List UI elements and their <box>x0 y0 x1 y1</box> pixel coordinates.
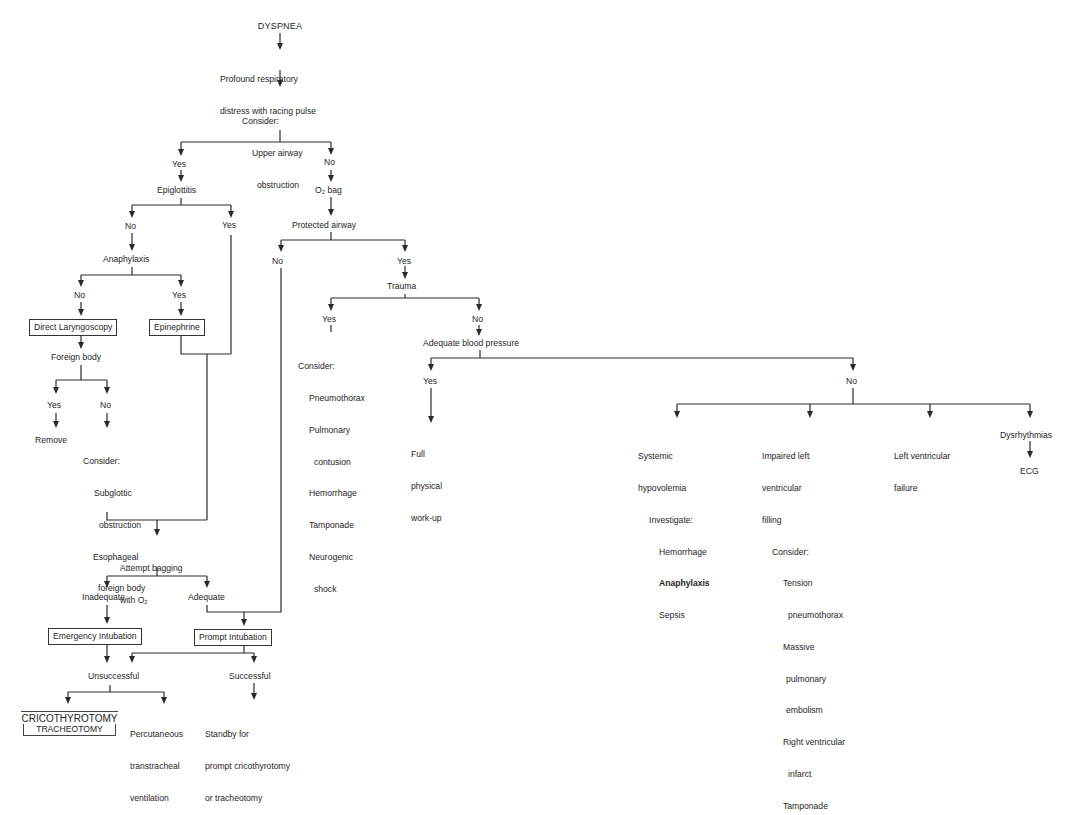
node-anaphylaxis-no: No <box>74 290 85 301</box>
node-trauma-yes: Yes <box>322 314 336 325</box>
node-adequate-blood-pressure: Adequate blood pressure <box>423 338 519 349</box>
node-upper-no: No <box>324 157 335 168</box>
node-foreign-body: Foreign body <box>51 352 101 363</box>
node-bp-yes: Yes <box>423 376 437 387</box>
node-protected-airway-yes: Yes <box>397 256 411 267</box>
node-foreign-body-yes: Yes <box>47 400 61 411</box>
node-inadequate: Inadequate <box>82 592 125 603</box>
node-impaired-lv-filling: Impaired left ventricular filling Consid… <box>762 430 845 815</box>
node-anaphylaxis: Anaphylaxis <box>103 254 149 265</box>
node-full-physical-workup: Full physical work-up <box>411 428 442 545</box>
node-left-ventricular-failure: Left ventricular failure <box>894 430 950 515</box>
box-direct-laryngoscopy: Direct Laryngoscopy <box>29 319 117 336</box>
node-ecg: ECG <box>1020 466 1039 477</box>
node-epiglottitis-no: No <box>125 221 136 232</box>
node-attempt-bagging: Attempt bagging with O₂ <box>120 542 183 627</box>
node-o2-bag: O₂ bag <box>315 185 342 196</box>
node-protected-airway: Protected airway <box>292 220 356 231</box>
node-adequate: Adequate <box>188 592 225 603</box>
tracheotomy-label: TRACHEOTOMY <box>23 724 116 736</box>
node-epiglottitis: Epiglottitis <box>157 185 196 196</box>
node-protected-airway-no: No <box>272 256 283 267</box>
node-dyspnea: DYSPNEA <box>245 21 315 32</box>
node-systemic-hypovolemia: Systemic hypovolemia Investigate: Hemorr… <box>638 430 710 642</box>
node-remove: Remove <box>35 435 67 446</box>
box-prompt-intubation: Prompt Intubation <box>194 629 272 646</box>
node-standby: Standby for prompt cricothyrotomy or tra… <box>205 708 290 815</box>
node-foreign-body-no: No <box>100 400 111 411</box>
node-upper-yes: Yes <box>172 159 186 170</box>
box-cricothyrotomy-tracheotomy: CRICOTHYROTOMY TRACHEOTOMY <box>21 711 118 736</box>
node-successful: Successful <box>229 671 271 682</box>
node-anaphylaxis-yes: Yes <box>172 290 186 301</box>
node-epiglottitis-yes: Yes <box>222 220 236 231</box>
box-epinephrine: Epinephrine <box>149 319 205 336</box>
node-bp-no: No <box>846 376 857 387</box>
node-trauma: Trauma <box>387 281 416 292</box>
node-dysrhythmias: Dysrhythmias <box>1000 430 1052 441</box>
node-unsuccessful: Unsuccessful <box>88 671 139 682</box>
box-emergency-intubation: Emergency Intubation <box>48 628 142 645</box>
node-trauma-consider: Consider: Pneumothorax Pulmonary contusi… <box>298 340 365 615</box>
cricothyrotomy-label: CRICOTHYROTOMY <box>21 711 118 724</box>
node-consider-upper-airway: Consider: Upper airway obstruction <box>242 95 303 212</box>
node-trauma-no: No <box>472 314 483 325</box>
node-percutaneous-ventilation: Percutaneous transtracheal ventilation <box>130 708 183 815</box>
